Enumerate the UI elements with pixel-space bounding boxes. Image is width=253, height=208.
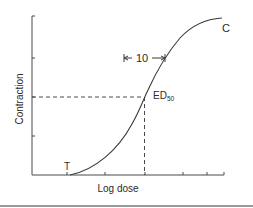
ed50-label-main: ED [153, 90, 167, 101]
x-axis-title: Log dose [97, 183, 139, 194]
ed50-label: ED50 [153, 90, 175, 102]
threshold-label: T [64, 161, 70, 172]
ed50-label-subscript: 50 [167, 95, 175, 102]
dose-response-chart: 10 T C ED50 Log dose Contraction [0, 0, 253, 208]
y-axis-title: Contraction [14, 73, 25, 124]
bottom-rule [0, 205, 253, 207]
interval-label: 10 [136, 52, 148, 64]
ceiling-label: C [222, 22, 230, 34]
dose-response-curve [70, 18, 222, 175]
